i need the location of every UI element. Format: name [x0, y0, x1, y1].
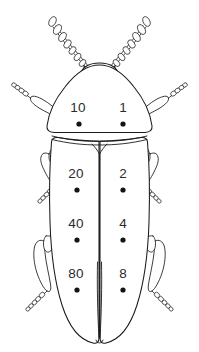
- spot-dot-1: [120, 121, 125, 126]
- right-antenna: [110, 15, 152, 73]
- beetle-illustration: 10 1 20 2 40 4: [0, 0, 199, 352]
- spot-dot-20: [74, 187, 79, 192]
- spot-label-20: 20: [68, 166, 83, 181]
- spot-dot-4: [120, 237, 125, 242]
- hind-right-leg: [145, 236, 173, 312]
- left-antenna: [47, 15, 89, 73]
- spot-label-10: 10: [70, 100, 85, 115]
- spot-label-1: 1: [119, 100, 127, 115]
- spot-dot-80: [74, 287, 79, 292]
- spot-dot-8: [120, 287, 125, 292]
- pronotum-outline: [47, 65, 152, 133]
- spot-label-2: 2: [119, 166, 127, 181]
- spot-dot-2: [120, 187, 125, 192]
- spot-dot-10: [76, 121, 81, 126]
- spot-label-8: 8: [119, 266, 127, 281]
- spot-label-40: 40: [68, 216, 83, 231]
- hind-left-leg: [25, 236, 53, 312]
- spot-label-4: 4: [119, 216, 127, 231]
- beetle-diagram: 10 1 20 2 40 4: [0, 0, 199, 352]
- spot-dot-40: [74, 237, 79, 242]
- spot-label-80: 80: [68, 266, 83, 281]
